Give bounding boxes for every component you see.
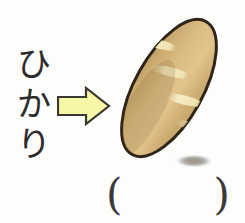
bread-icon (110, 6, 228, 174)
vocabulary-card: ひ か り (0, 0, 245, 223)
kana-character-3: り (10, 124, 58, 164)
answer-blank-left-paren: ( (106, 172, 122, 218)
answer-blank-right-paren: ) (214, 172, 230, 218)
answer-blank[interactable]: ( ) (104, 172, 232, 218)
kana-character-2: か (10, 84, 58, 124)
vocabulary-word-vertical: ひ か り (10, 44, 58, 174)
arrow-right-icon (57, 86, 111, 126)
kana-character-1: ひ (10, 44, 58, 84)
